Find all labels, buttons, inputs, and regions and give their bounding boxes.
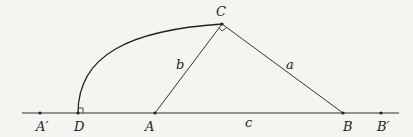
- label-b-vertex: B: [342, 119, 353, 134]
- arc-d-to-c: [78, 24, 222, 113]
- label-side-b: b: [176, 57, 184, 72]
- point-d: [76, 111, 79, 114]
- side-a: [222, 24, 343, 113]
- right-angle-mark-c: [219, 28, 226, 31]
- point-c: [220, 22, 223, 25]
- side-b: [155, 24, 222, 113]
- point-b-prime: [379, 111, 382, 114]
- point-a: [153, 111, 156, 114]
- label-side-a: a: [286, 57, 294, 72]
- label-a-prime: A′: [35, 119, 48, 134]
- label-a: A: [144, 119, 154, 134]
- geometry-diagram: A′ D A C B B′ b a c: [0, 0, 413, 137]
- label-d: D: [73, 119, 85, 134]
- point-a-prime: [38, 111, 41, 114]
- label-c-vertex: C: [216, 4, 226, 19]
- label-side-c: c: [245, 115, 253, 130]
- label-b-prime: B′: [376, 119, 390, 134]
- point-b: [341, 111, 344, 114]
